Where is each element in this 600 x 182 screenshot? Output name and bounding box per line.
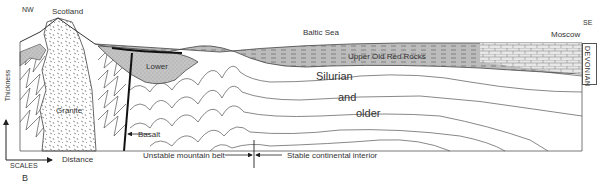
unit-basalt: Basalt xyxy=(138,131,160,139)
devonian-label-box: DEVONIAN xyxy=(582,43,597,85)
unit-older: older xyxy=(356,108,380,119)
unit-and: and xyxy=(338,92,356,103)
zone-unstable: Unstable mountain belt xyxy=(143,152,225,160)
axis-thickness: Thickness xyxy=(4,70,11,102)
unit-devonian: DEVONIAN xyxy=(584,46,591,87)
axis-distance: Distance xyxy=(62,156,93,164)
scales-title: SCALES xyxy=(10,162,38,169)
direction-se: SE xyxy=(583,19,592,26)
unit-lower: Lower xyxy=(146,63,168,71)
zone-stable: Stable continental interior xyxy=(287,152,377,160)
unit-upper-old-red: Upper Old Red Rocks xyxy=(348,53,426,61)
label-scotland: Scotland xyxy=(52,8,83,16)
label-baltic-sea: Baltic Sea xyxy=(303,29,339,37)
unit-silurian: Silurian xyxy=(316,71,353,82)
direction-nw: NW xyxy=(22,6,34,13)
panel-label: B xyxy=(22,174,28,182)
label-moscow: Moscow xyxy=(551,31,580,39)
unit-granite: Granite xyxy=(56,107,82,115)
